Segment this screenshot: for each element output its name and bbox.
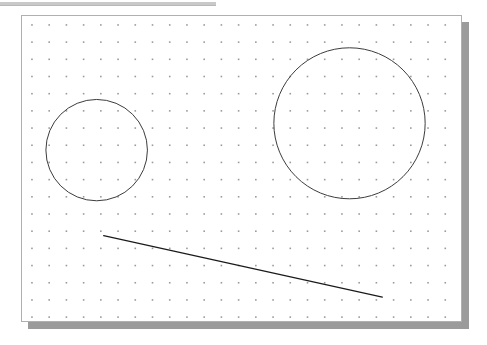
grid-dot [410,110,412,112]
grid-dot [48,144,50,146]
grid-dot [169,213,171,215]
grid-dot [117,282,119,284]
grid-dot [134,144,136,146]
grid-dot [393,196,395,198]
grid-dot [272,93,274,95]
grid-dot [393,59,395,61]
grid-dot [48,299,50,301]
grid-dot [272,248,274,250]
grid-dot [289,59,291,61]
grid-dot [203,127,205,129]
grid-dot [152,179,154,181]
grid-dot [255,41,257,43]
grid-dot [358,24,360,26]
grid-dot [341,282,343,284]
grid-dot [272,230,274,232]
grid-dot [376,93,378,95]
grid-dot [427,316,429,318]
grid-dot [221,230,223,232]
grid-dot [289,127,291,129]
grid-dot [341,110,343,112]
grid-dot [341,127,343,129]
grid-dot [221,41,223,43]
grid-dot [83,144,85,146]
grid-dot [393,144,395,146]
grid-dot [376,316,378,318]
grid-dot [289,144,291,146]
grid-dot [203,59,205,61]
grid-dot [324,299,326,301]
grid-dot [66,316,68,318]
grid-dot [238,213,240,215]
grid-dot [203,162,205,164]
grid-dot [203,24,205,26]
grid-dot [134,282,136,284]
grid-dot [31,127,33,129]
grid-dot [83,24,85,26]
grid-dot [238,162,240,164]
grid-dot [444,110,446,112]
grid-dot [48,316,50,318]
grid-dot [324,24,326,26]
grid-dot [221,76,223,78]
grid-dot [117,196,119,198]
grid-dot [427,93,429,95]
grid-dot [169,196,171,198]
grid-dot [289,93,291,95]
grid-dot [324,248,326,250]
grid-dot [324,196,326,198]
grid-dot [358,59,360,61]
grid-dot [341,265,343,267]
grid-dot [307,162,309,164]
grid-dot [444,162,446,164]
grid-dot [238,196,240,198]
grid-dot [31,162,33,164]
grid-dot [100,213,102,215]
grid-dot [221,248,223,250]
grid-dot [186,282,188,284]
grid-dot [324,316,326,318]
grid-dot [134,59,136,61]
grid-dot [289,265,291,267]
grid-dot [134,41,136,43]
grid-dot [238,248,240,250]
grid-dot [152,93,154,95]
grid-dot [358,76,360,78]
grid-dot [376,110,378,112]
grid-dot [48,127,50,129]
grid-dot [444,41,446,43]
grid-dot [341,144,343,146]
grid-dot [186,196,188,198]
grid-dot [134,213,136,215]
grid-dot [134,299,136,301]
grid-dot [169,282,171,284]
grid-dot [427,196,429,198]
grid-dot [376,230,378,232]
grid-dot [393,248,395,250]
app-window [0,0,487,345]
grid-dot [221,265,223,267]
grid-dot [134,265,136,267]
grid-dot [255,179,257,181]
grid-dot [272,179,274,181]
drawing-canvas[interactable] [21,15,462,322]
grid-dot [427,24,429,26]
grid-dot [341,179,343,181]
grid-dot [221,93,223,95]
grid-dot [48,213,50,215]
grid-dot [31,213,33,215]
grid-dot [31,248,33,250]
grid-dot [358,110,360,112]
grid-dot [203,213,205,215]
grid-dot [83,282,85,284]
grid-dot [203,265,205,267]
grid-dot [341,162,343,164]
grid-dot [186,299,188,301]
grid-dot [117,179,119,181]
grid-dot [307,179,309,181]
grid-dot [341,248,343,250]
grid-dot [255,230,257,232]
grid-dot [307,299,309,301]
grid-dot [186,213,188,215]
grid-dot [444,316,446,318]
